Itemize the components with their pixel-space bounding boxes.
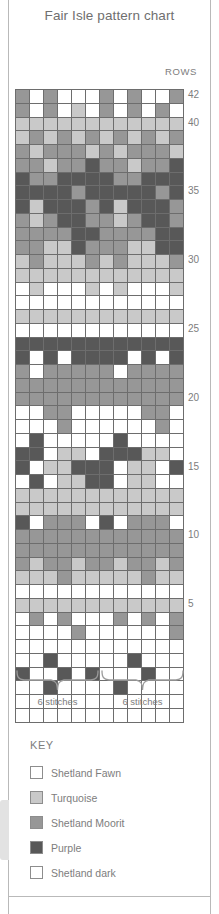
chart-cell	[58, 145, 72, 159]
chart-cell	[114, 709, 128, 723]
chart-cell	[142, 406, 156, 420]
chart-cell	[128, 324, 142, 338]
chart-cell	[128, 585, 142, 599]
chart-cell	[44, 558, 58, 572]
chart-cell	[100, 516, 114, 530]
chart-cell	[16, 558, 30, 572]
chart-cell	[128, 296, 142, 310]
chart-cell	[100, 461, 114, 475]
chart-cell	[142, 599, 156, 613]
chart-cell	[114, 406, 128, 420]
stitch-repeat-captions: 6 stitches 6 stitches	[15, 696, 185, 707]
chart-cell	[58, 131, 72, 145]
chart-cell	[72, 310, 86, 324]
chart-cell	[58, 558, 72, 572]
chart-cell	[128, 599, 142, 613]
chart-cell	[170, 571, 184, 585]
chart-cell	[100, 365, 114, 379]
chart-cell	[100, 296, 114, 310]
row-number-label: 35	[188, 186, 199, 196]
chart-cell	[44, 228, 58, 242]
key-swatch-icon	[30, 841, 43, 854]
chart-cell	[16, 709, 30, 723]
chart-cell	[72, 214, 86, 228]
chart-cell	[128, 516, 142, 530]
chart-cell	[58, 351, 72, 365]
rows-axis-caption: ROWS	[165, 66, 197, 77]
chart-cell	[142, 475, 156, 489]
chart-cell	[30, 406, 44, 420]
chart-cell	[72, 255, 86, 269]
chart-cell	[72, 489, 86, 503]
chart-cell	[72, 241, 86, 255]
chart-cell	[58, 118, 72, 132]
key-item: Shetland Fawn	[30, 760, 200, 785]
chart-cell	[58, 585, 72, 599]
key-item: Shetland dark	[30, 860, 200, 885]
chart-cell	[86, 90, 100, 104]
key-item: Turquoise	[30, 785, 200, 810]
chart-cell	[16, 475, 30, 489]
chart-cell	[30, 324, 44, 338]
chart-cell	[30, 489, 44, 503]
chart-cell	[86, 338, 100, 352]
key-item-label: Shetland Fawn	[51, 767, 121, 779]
chart-cell	[100, 434, 114, 448]
chart-cell	[86, 448, 100, 462]
chart-cell	[100, 530, 114, 544]
chart-cell	[114, 310, 128, 324]
chart-cell	[156, 310, 170, 324]
chart-cell	[114, 200, 128, 214]
chart-cell	[30, 365, 44, 379]
page-edge-shadow	[0, 800, 9, 860]
chart-cell	[128, 173, 142, 187]
row-number-label: 10	[188, 530, 199, 540]
chart-cell	[142, 626, 156, 640]
chart-cell	[170, 241, 184, 255]
chart-cell	[142, 434, 156, 448]
chart-cell	[156, 255, 170, 269]
chart-cell	[58, 448, 72, 462]
chart-cell	[142, 558, 156, 572]
chart-cell	[30, 654, 44, 668]
chart-cell	[156, 324, 170, 338]
chart-cell	[44, 351, 58, 365]
chart-cell	[170, 475, 184, 489]
chart-cell	[170, 104, 184, 118]
chart-cell	[128, 461, 142, 475]
chart-cell	[44, 709, 58, 723]
chart-cell	[16, 599, 30, 613]
chart-cell	[16, 214, 30, 228]
chart-cell	[44, 214, 58, 228]
chart-cell	[156, 159, 170, 173]
chart-cell	[30, 296, 44, 310]
chart-cell	[86, 544, 100, 558]
chart-cell	[142, 255, 156, 269]
chart-cell	[100, 173, 114, 187]
chart-cell	[114, 338, 128, 352]
chart-cell	[30, 448, 44, 462]
chart-cell	[30, 503, 44, 517]
chart-cell	[170, 420, 184, 434]
chart-cell	[30, 228, 44, 242]
stitch-repeat-braces	[15, 670, 185, 692]
chart-cell	[100, 613, 114, 627]
chart-cell	[86, 709, 100, 723]
chart-cell	[58, 173, 72, 187]
chart-cell	[86, 489, 100, 503]
chart-cell	[16, 118, 30, 132]
chart-cell	[142, 338, 156, 352]
chart-cell	[86, 434, 100, 448]
chart-cell	[58, 406, 72, 420]
chart-cell	[100, 709, 114, 723]
chart-cell	[30, 173, 44, 187]
chart-cell	[30, 283, 44, 297]
chart-cell	[16, 434, 30, 448]
chart-cell	[16, 269, 30, 283]
chart-cell	[16, 255, 30, 269]
chart-cell	[100, 544, 114, 558]
chart-cell	[44, 296, 58, 310]
chart-cell	[58, 310, 72, 324]
chart-cell	[16, 131, 30, 145]
chart-cell	[170, 283, 184, 297]
